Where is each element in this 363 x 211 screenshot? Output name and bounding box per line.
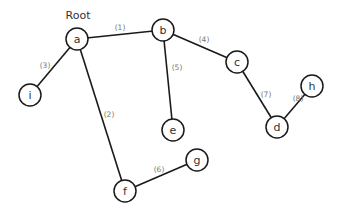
- edge-label-6: (6): [154, 165, 165, 174]
- node-g-label: g: [194, 154, 201, 167]
- tree-diagram: (1) (2) (3) (4) (5) (6) (7) (8) Root a b…: [0, 0, 363, 211]
- edge-label-2: (2): [104, 110, 115, 119]
- node-e-label: e: [170, 124, 177, 137]
- node-b-label: b: [160, 24, 167, 37]
- node-i: i: [19, 84, 41, 106]
- edges: [30, 30, 312, 191]
- edge-label-8: (8): [293, 94, 304, 103]
- node-d: d: [266, 116, 288, 138]
- node-a: a: [66, 28, 88, 50]
- edge-a-f: [77, 39, 125, 191]
- node-h-label: h: [309, 80, 316, 93]
- node-i-label: i: [28, 89, 31, 102]
- node-c: c: [226, 51, 248, 73]
- node-a-label: a: [74, 33, 81, 46]
- root-label: Root: [66, 9, 92, 22]
- edge-label-3: (3): [40, 61, 51, 70]
- edge-label-1: (1): [115, 23, 126, 32]
- edge-label-7: (7): [261, 90, 272, 99]
- edge-label-5: (5): [172, 63, 183, 72]
- node-c-label: c: [234, 56, 240, 69]
- node-d-label: d: [274, 121, 281, 134]
- node-b: b: [152, 19, 174, 41]
- node-h: h: [301, 75, 323, 97]
- edge-b-e: [163, 30, 173, 130]
- node-f: f: [114, 180, 136, 202]
- edge-label-4: (4): [199, 35, 210, 44]
- node-e: e: [162, 119, 184, 141]
- node-g: g: [186, 149, 208, 171]
